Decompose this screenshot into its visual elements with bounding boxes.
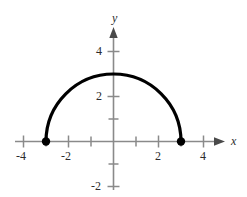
y-tick-label-neg2: -2: [91, 180, 101, 192]
coordinate-plane-svg: [0, 0, 247, 197]
graph-figure: -4 -2 2 4 4 2 -2 x y: [0, 0, 247, 197]
x-tick-label-neg4: -4: [16, 150, 26, 162]
x-axis-arrowhead: [214, 137, 225, 145]
x-tick-label-neg2: -2: [61, 150, 71, 162]
left-endpoint-dot: [42, 137, 50, 145]
x-tick-label-pos2: 2: [155, 150, 161, 162]
y-tick-label-pos4: 4: [96, 45, 102, 57]
y-tick-label-pos2: 2: [96, 90, 102, 102]
x-tick-label-pos4: 4: [200, 150, 206, 162]
right-endpoint-dot: [177, 137, 185, 145]
x-axis-label: x: [231, 135, 236, 147]
y-axis-arrowhead: [109, 27, 117, 38]
y-axis-label: y: [112, 12, 117, 24]
